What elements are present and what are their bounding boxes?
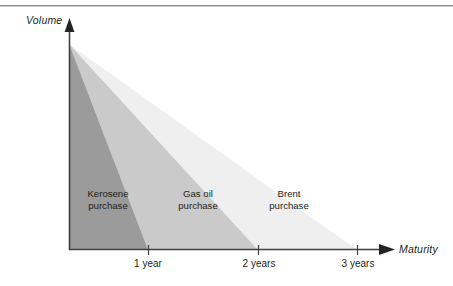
series-label-kerosene-purchase: Kerosene purchase xyxy=(87,188,128,211)
x-axis-title: Maturity xyxy=(399,243,438,255)
series-label-gas-oil-line2: purchase xyxy=(178,200,217,212)
series-label-gas-oil-line1: Gas oil xyxy=(183,188,213,199)
series-label-brent-purchase: Brent purchase xyxy=(269,188,308,211)
chart-plot-area xyxy=(0,0,453,286)
series-label-brent-line2: purchase xyxy=(269,200,308,212)
series-label-kerosene-line1: Kerosene xyxy=(87,188,128,199)
x-tick-label-2-years: 2 years xyxy=(243,258,276,269)
x-tick-label-3-years: 3 years xyxy=(342,258,375,269)
series-label-brent-line1: Brent xyxy=(278,188,301,199)
x-tick-label-1-year: 1 year xyxy=(134,258,162,269)
series-label-kerosene-line2: purchase xyxy=(87,200,128,212)
series-label-gas-oil-purchase: Gas oil purchase xyxy=(178,188,217,211)
y-axis-title: Volume xyxy=(26,14,62,26)
y-axis-arrowhead-icon xyxy=(65,18,75,32)
x-axis-arrowhead-icon xyxy=(379,244,395,255)
chart-figure: Volume Maturity 1 year 2 years 3 years K… xyxy=(0,0,453,286)
